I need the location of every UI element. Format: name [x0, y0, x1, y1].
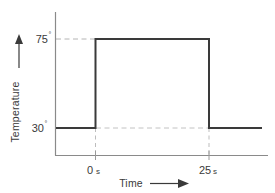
x-tick-label-0s-number: 0 [87, 164, 93, 176]
x-tick-label-0s-unit: s [96, 167, 100, 176]
temperature-step-trace [56, 39, 262, 128]
y-tick-label-30: 30 [32, 122, 44, 134]
x-axis-title: Time [119, 177, 143, 189]
x-tick-label-25s-number: 25 [199, 164, 211, 176]
temperature-time-step-chart: 75 ° 30 ° 0 s 25 s Temperature Time [0, 0, 275, 193]
data-trace-group [56, 39, 262, 128]
guide-lines [56, 39, 209, 155]
y-tick-labels: 75 ° 30 ° [32, 31, 52, 134]
axis-spines [55, 12, 268, 156]
y-tick-degree-75: ° [49, 31, 52, 38]
y-axis-title: Temperature [9, 81, 21, 142]
y-axis-title-group: Temperature [9, 34, 23, 143]
chart-figure: 75 ° 30 ° 0 s 25 s Temperature Time [0, 0, 275, 193]
x-tick-labels: 0 s 25 s [87, 164, 217, 176]
arrow-up-icon [15, 34, 23, 44]
arrow-right-icon [178, 179, 189, 188]
x-tick-label-25s-unit: s [213, 167, 217, 176]
y-tick-label-75: 75 [36, 33, 48, 45]
y-tick-degree-30: ° [45, 120, 48, 127]
x-axis-title-group: Time [119, 177, 189, 189]
